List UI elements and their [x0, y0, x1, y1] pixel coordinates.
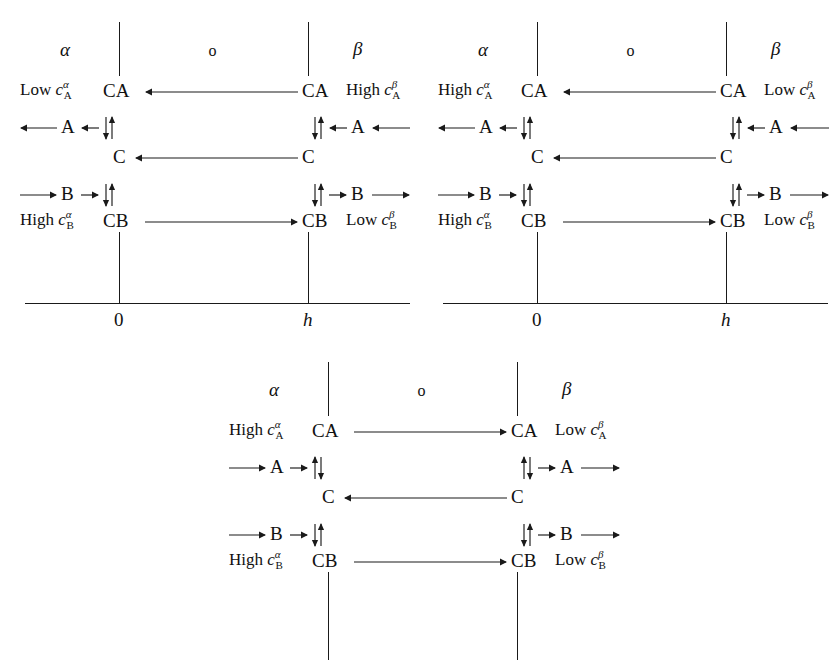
exchange-arrows-left-b: [519, 182, 535, 208]
species-label-right-cb: CB: [720, 211, 746, 230]
species-label-left-cb: CB: [521, 211, 547, 230]
bulk-arrow-right-a: [372, 121, 410, 135]
inner-arrow-right-b: [538, 528, 556, 542]
position-axis: [25, 303, 410, 304]
panel-antiport-counter-transport: αoβ0hLow cαAHigh cβACACAAACCBBHigh cαBLo…: [0, 0, 418, 330]
species-label-left-c: C: [113, 147, 126, 166]
exchange-arrows-left-a: [519, 115, 535, 141]
bulk-arrow-right-a: [790, 121, 829, 135]
axis-tick-label-h: h: [303, 310, 313, 329]
inner-arrow-left-b: [499, 188, 517, 202]
species-label-left-ca: CA: [312, 421, 339, 440]
phase-label-alpha: α: [478, 40, 488, 59]
panel-parallel-transport: αoβ0hHigh cαALow cβACACAAACCBBHigh cαBLo…: [209, 340, 628, 660]
species-label-right-c: C: [302, 147, 315, 166]
species-label-right-ca: CA: [720, 81, 747, 100]
bulk-arrow-right-b: [790, 188, 829, 202]
bulk-arrow-right-b: [372, 188, 410, 202]
exchange-arrows-right-a: [728, 115, 744, 141]
species-label-left-ca: CA: [521, 81, 548, 100]
species-label-left-c: C: [531, 147, 544, 166]
transport-arrow-row-ca: [354, 425, 507, 439]
conc-label-right: High cβA: [346, 81, 400, 98]
exchange-arrows-left-b: [101, 182, 117, 208]
species-label-left-a: A: [61, 117, 75, 136]
bulk-arrow-left-b: [229, 528, 266, 542]
conc-label-right: Low cβA: [764, 81, 815, 98]
species-label-left-a: A: [270, 457, 284, 476]
exchange-arrows-right-b: [519, 522, 535, 548]
phase-label-beta: β: [562, 379, 571, 398]
carrier-return-arrow: [344, 491, 507, 505]
inner-arrow-left-a: [81, 121, 99, 135]
exchange-arrows-right-b: [728, 182, 744, 208]
exchange-arrows-right-a: [519, 455, 535, 481]
species-label-left-c: C: [322, 487, 335, 506]
transport-arrow-row-cb: [354, 555, 507, 569]
inner-arrow-right-a: [747, 121, 765, 135]
conc-label-right: Low cβA: [555, 421, 606, 438]
inner-arrow-left-a: [499, 121, 517, 135]
membrane-boundary-right-lower: [308, 232, 309, 303]
transport-arrow-row-cb: [145, 215, 298, 229]
position-axis: [443, 303, 828, 304]
panel-symport-co-transport: αoβ0hHigh cαALow cβACACAAACCBBHigh cαBLo…: [418, 0, 837, 330]
bulk-arrow-left-a: [229, 461, 266, 475]
membrane-boundary-left-lower: [119, 232, 120, 303]
transport-arrow-row-ca: [145, 85, 298, 99]
species-label-right-b: B: [351, 184, 364, 203]
membrane-boundary-right-lower: [517, 572, 518, 660]
bulk-arrow-left-a: [438, 121, 475, 135]
inner-arrow-right-a: [538, 461, 556, 475]
species-label-right-b: B: [560, 524, 573, 543]
species-label-left-cb: CB: [103, 211, 129, 230]
species-label-right-a: A: [560, 457, 574, 476]
membrane-boundary-left-upper: [328, 362, 329, 416]
exchange-arrows-left-b: [310, 522, 326, 548]
species-label-right-a: A: [769, 117, 783, 136]
membrane-boundary-right-lower: [726, 232, 727, 303]
inner-arrow-left-a: [290, 461, 308, 475]
inner-arrow-right-a: [329, 121, 347, 135]
exchange-arrows-left-a: [310, 455, 326, 481]
membrane-boundary-left-lower: [537, 232, 538, 303]
bulk-arrow-left-b: [20, 188, 57, 202]
phase-label-beta: β: [353, 39, 362, 58]
phase-label-beta: β: [771, 39, 780, 58]
species-label-left-a: A: [479, 117, 493, 136]
axis-tick-label-zero: 0: [532, 310, 542, 329]
axis-tick-label-h: h: [721, 310, 731, 329]
species-label-left-cb: CB: [312, 551, 338, 570]
membrane-boundary-right-upper: [726, 22, 727, 76]
conc-label-right: Low cβB: [555, 551, 606, 568]
phase-label-membrane: o: [627, 43, 635, 59]
species-label-right-cb: CB: [302, 211, 328, 230]
conc-label-right: Low cβB: [346, 211, 397, 228]
transport-arrow-row-cb: [563, 215, 716, 229]
bulk-arrow-left-a: [20, 121, 57, 135]
carrier-return-arrow: [135, 151, 298, 165]
species-label-right-a: A: [351, 117, 365, 136]
species-label-right-cb: CB: [511, 551, 537, 570]
bulk-arrow-right-a: [581, 461, 620, 475]
conc-label-left: Low cαA: [20, 81, 72, 98]
bulk-arrow-left-b: [438, 188, 475, 202]
phase-label-alpha: α: [60, 40, 70, 59]
carrier-return-arrow: [553, 151, 716, 165]
species-label-left-b: B: [270, 524, 283, 543]
membrane-boundary-right-upper: [517, 362, 518, 416]
species-label-right-b: B: [769, 184, 782, 203]
species-label-right-ca: CA: [511, 421, 538, 440]
species-label-right-c: C: [511, 487, 524, 506]
conc-label-left: High cαB: [438, 211, 492, 228]
axis-tick-label-zero: 0: [114, 310, 124, 329]
phase-label-membrane: o: [418, 383, 426, 399]
conc-label-left: High cαA: [229, 421, 284, 438]
membrane-boundary-left-upper: [119, 22, 120, 76]
membrane-boundary-left-upper: [537, 22, 538, 76]
conc-label-left: High cαB: [20, 211, 74, 228]
species-label-right-ca: CA: [302, 81, 329, 100]
bulk-arrow-right-b: [581, 528, 620, 542]
species-label-right-c: C: [720, 147, 733, 166]
inner-arrow-left-b: [81, 188, 99, 202]
